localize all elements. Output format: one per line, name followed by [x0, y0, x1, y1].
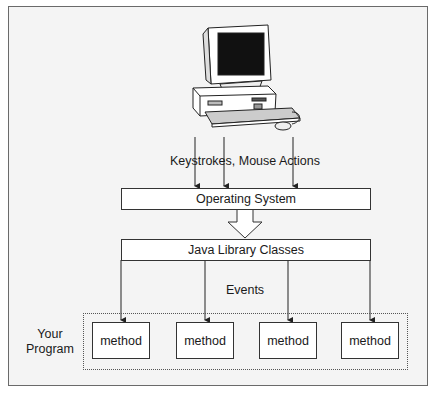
operating-system-box: Operating System — [121, 188, 371, 210]
method-box: method — [92, 322, 150, 359]
input-label: Keystrokes, Mouse Actions — [150, 154, 340, 168]
your-program-label: Your Program — [22, 327, 78, 357]
events-label: Events — [220, 283, 270, 297]
method-box: method — [259, 322, 317, 359]
method-box: method — [341, 322, 399, 359]
your-program-label-line2: Program — [22, 342, 78, 357]
flow-arrow-icon — [228, 210, 262, 238]
java-library-classes-box: Java Library Classes — [121, 239, 371, 261]
desktop-computer-icon — [193, 25, 300, 130]
method-box: method — [176, 322, 234, 359]
your-program-label-line1: Your — [22, 327, 78, 342]
